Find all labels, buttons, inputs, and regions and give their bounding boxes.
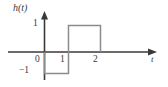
y-axis-label-text: h(t) bbox=[13, 2, 27, 13]
x-tick-label-2: 2 bbox=[93, 55, 98, 65]
y-tick-label-1: 1 bbox=[33, 19, 38, 29]
x-axis-label: t bbox=[151, 55, 154, 64]
y-axis-arrowhead bbox=[41, 11, 48, 20]
signal-waveform bbox=[45, 26, 101, 74]
y-axis-label: h(t) bbox=[13, 3, 27, 13]
x-axis bbox=[8, 48, 157, 55]
x-tick-label-1: 1 bbox=[60, 55, 65, 65]
y-tick-label-minus-1: −1 bbox=[19, 66, 29, 76]
signal-plot-figure: h(t) t 1 −1 0 1 2 bbox=[0, 0, 168, 87]
x-tick-label-0: 0 bbox=[35, 55, 40, 65]
